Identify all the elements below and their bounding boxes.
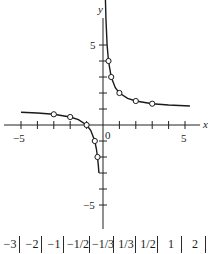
table-cell: 1/3 (116, 236, 136, 252)
data-point (109, 74, 114, 79)
data-point (95, 154, 100, 159)
y-axis-label: y (97, 3, 103, 15)
data-point (117, 90, 122, 95)
data-point (133, 98, 138, 103)
axes (4, 18, 200, 229)
y-neg-tick-label: −5 (83, 199, 95, 211)
table-separator (89, 236, 90, 253)
table-cell: −1/2 (66, 236, 90, 252)
value-table-row: −3−2−1−1/2−1/31/31/212 (0, 236, 214, 254)
table-cell: 1 (160, 236, 182, 252)
table-separator (63, 236, 64, 253)
data-point (92, 138, 97, 143)
table-cell: 2 (184, 236, 206, 252)
table-separator (113, 236, 114, 253)
table-separator (135, 236, 136, 253)
data-point (68, 114, 73, 119)
y-pos-tick-label: 5 (90, 39, 96, 51)
data-point (84, 122, 89, 127)
x-axis-label: x (202, 118, 208, 130)
table-cell: −1/3 (92, 236, 114, 252)
table-cell: −3 (0, 236, 20, 252)
function-plot: y x 0 −5 5 5 −5 (0, 0, 214, 232)
origin-label: 0 (105, 129, 111, 141)
table-separator (157, 236, 158, 253)
table-cell: −1 (44, 236, 64, 252)
table-separator (205, 236, 206, 253)
table-separator (19, 236, 20, 253)
data-point (106, 58, 111, 63)
table-cell: 1/2 (138, 236, 158, 252)
curve-left (21, 112, 99, 173)
table-separator (41, 236, 42, 253)
x-neg-tick-label: −5 (13, 132, 25, 144)
data-point (150, 101, 155, 106)
curve-right (105, 0, 190, 106)
table-cell: −2 (22, 236, 42, 252)
data-point (51, 112, 56, 117)
table-separator (181, 236, 182, 253)
curves (21, 0, 190, 173)
x-pos-tick-label: 5 (181, 132, 187, 144)
